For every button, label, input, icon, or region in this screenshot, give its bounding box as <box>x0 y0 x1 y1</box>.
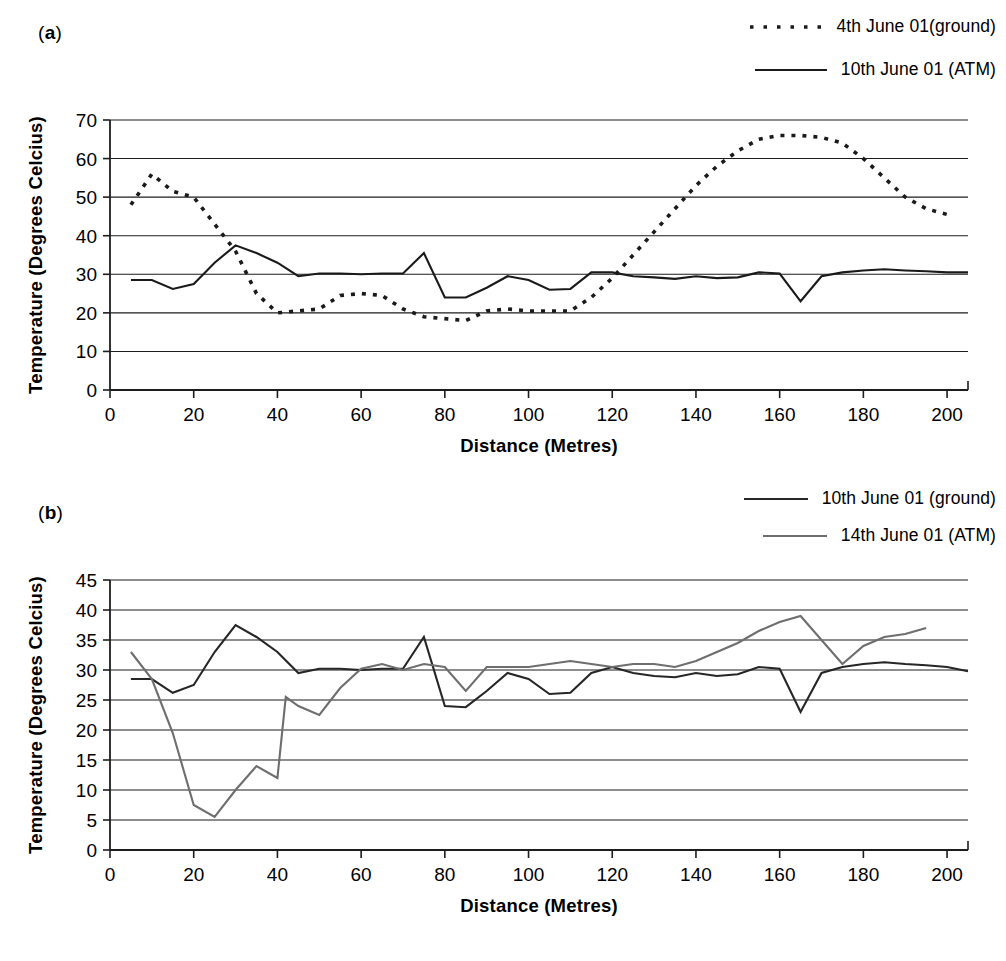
x-tick-label: 140 <box>680 404 712 425</box>
y-tick-label: 35 <box>76 630 97 651</box>
y-tick-label: 10 <box>76 780 97 801</box>
x-tick-label: 0 <box>105 864 116 885</box>
y-tick-label: 30 <box>76 660 97 681</box>
x-tick-label: 160 <box>764 404 796 425</box>
series-line <box>131 135 947 320</box>
x-tick-label: 200 <box>931 404 963 425</box>
y-axis-title: Temperature (Degrees Celcius) <box>25 576 46 854</box>
y-tick-label: 45 <box>76 570 97 591</box>
x-tick-label: 120 <box>596 404 628 425</box>
x-tick-label: 200 <box>931 864 963 885</box>
x-tick-label: 180 <box>848 864 880 885</box>
x-tick-label: 80 <box>434 864 455 885</box>
y-tick-label: 20 <box>76 303 97 324</box>
x-tick-label: 0 <box>105 404 116 425</box>
y-tick-label: 0 <box>86 380 97 401</box>
chart-canvas-a: 0102030405060700204060801001201401601802… <box>0 0 1006 480</box>
panel-a-chart: 0102030405060700204060801001201401601802… <box>0 0 1006 480</box>
y-tick-label: 5 <box>86 810 97 831</box>
x-tick-label: 140 <box>680 864 712 885</box>
x-tick-label: 100 <box>513 864 545 885</box>
x-tick-label: 160 <box>764 864 796 885</box>
panel-b: (b) 10th June 01 (ground) 14th June 01 (… <box>0 480 1006 961</box>
y-tick-label: 0 <box>86 840 97 861</box>
y-tick-label: 60 <box>76 149 97 170</box>
y-tick-label: 40 <box>76 226 97 247</box>
y-tick-label: 15 <box>76 750 97 771</box>
panel-b-chart: 0510152025303540450204060801001201401601… <box>0 480 1006 961</box>
x-tick-label: 60 <box>351 864 372 885</box>
x-tick-label: 20 <box>183 404 204 425</box>
y-tick-label: 30 <box>76 264 97 285</box>
x-tick-label: 100 <box>513 404 545 425</box>
x-tick-label: 80 <box>434 404 455 425</box>
y-tick-label: 50 <box>76 187 97 208</box>
y-tick-label: 70 <box>76 110 97 131</box>
y-tick-label: 40 <box>76 600 97 621</box>
series-line <box>131 616 926 817</box>
y-tick-label: 25 <box>76 690 97 711</box>
x-tick-label: 40 <box>267 404 288 425</box>
y-axis-title: Temperature (Degrees Celcius) <box>25 116 46 394</box>
chart-canvas-b: 0510152025303540450204060801001201401601… <box>0 480 1006 961</box>
x-axis-title: Distance (Metres) <box>460 895 618 916</box>
x-tick-label: 120 <box>596 864 628 885</box>
x-tick-label: 180 <box>848 404 880 425</box>
x-tick-label: 40 <box>267 864 288 885</box>
x-tick-label: 60 <box>351 404 372 425</box>
series-line <box>131 625 968 712</box>
y-tick-label: 20 <box>76 720 97 741</box>
panel-a: (a) 4th June 01(ground) 10th June 01 (AT… <box>0 0 1006 480</box>
x-tick-label: 20 <box>183 864 204 885</box>
x-axis-title: Distance (Metres) <box>460 435 618 456</box>
y-tick-label: 10 <box>76 341 97 362</box>
